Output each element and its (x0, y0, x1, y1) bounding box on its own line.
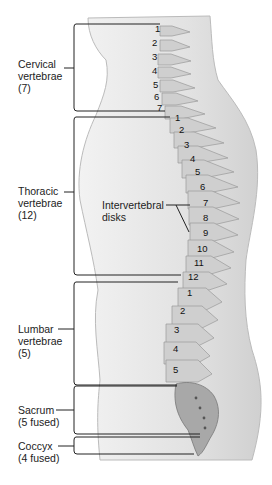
cervical-6: 6 (154, 92, 159, 102)
cervical-5: 5 (153, 80, 158, 90)
thoracic-10: 10 (197, 244, 208, 254)
thoracic-3: 3 (184, 140, 189, 150)
thoracic-5: 5 (195, 167, 200, 177)
thoracic-9: 9 (203, 228, 208, 238)
lumbar-2: 2 (180, 306, 185, 316)
thoracic-8: 8 (203, 213, 208, 223)
label-sacrum: Sacrum (5 fused) (18, 404, 59, 428)
thoracic-11: 11 (194, 258, 204, 268)
cervical-7: 7 (157, 103, 162, 113)
label-cervical: Cervical vertebrae (7) (18, 58, 62, 94)
cervical-3: 3 (152, 52, 157, 62)
thoracic-4: 4 (190, 154, 195, 164)
lumbar-1: 1 (187, 288, 192, 298)
thoracic-1: 1 (175, 113, 180, 123)
label-lumbar: Lumbar vertebrae (5) (18, 323, 62, 359)
cervical-4: 4 (152, 66, 157, 76)
label-thoracic: Thoracic vertebrae (12) (18, 185, 62, 221)
lumbar-4: 4 (173, 344, 178, 354)
lumbar-5: 5 (173, 365, 178, 375)
lumbar-3: 3 (174, 325, 179, 335)
thoracic-2: 2 (179, 125, 184, 135)
cervical-1: 1 (155, 24, 160, 34)
spine-diagram: Cervical vertebrae (7) Thoracic vertebra… (0, 0, 272, 485)
cervical-2: 2 (152, 38, 157, 48)
label-coccyx: Coccyx (4 fused) (18, 440, 59, 464)
label-intervertebral-disks: Intervertebral disks (102, 199, 164, 223)
thoracic-6: 6 (200, 182, 205, 192)
thoracic-12: 12 (188, 272, 199, 282)
thoracic-7: 7 (203, 198, 208, 208)
